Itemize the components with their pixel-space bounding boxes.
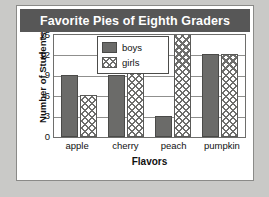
bar-pumpkin-girls bbox=[221, 54, 238, 137]
chart-title-banner: Favorite Pies of Eighth Graders bbox=[20, 9, 250, 32]
bar-group-apple bbox=[61, 35, 97, 137]
chart-legend: boys girls bbox=[97, 36, 169, 74]
legend-item-boys: boys bbox=[102, 40, 164, 55]
x-tick-label-pumpkin: pumpkin bbox=[199, 140, 245, 151]
bar-pumpkin-boys bbox=[202, 54, 219, 137]
y-axis-tick-labels: 0 3 6 9 12 15 bbox=[32, 34, 50, 138]
page-background: Favorite Pies of Eighth Graders Number o… bbox=[0, 0, 269, 197]
y-tick-label: 6 bbox=[45, 91, 50, 101]
page-title: Favorite Pies of Eighth Graders bbox=[40, 14, 230, 28]
bar-cherry-boys bbox=[108, 75, 125, 137]
bar-peach-girls bbox=[174, 34, 191, 137]
bar-peach-boys bbox=[155, 116, 172, 137]
y-tick-label: 15 bbox=[39, 30, 50, 40]
bar-group-pumpkin bbox=[202, 35, 238, 137]
y-tick-label: 9 bbox=[45, 70, 50, 80]
bar-apple-boys bbox=[61, 75, 78, 137]
plot-area: boys girls bbox=[53, 34, 246, 138]
chart-card: Favorite Pies of Eighth Graders Number o… bbox=[16, 5, 254, 181]
chart-region: Number of Students 0 3 6 9 12 15 bbox=[20, 34, 250, 178]
y-tick-label: 12 bbox=[39, 50, 50, 60]
solid-dark-gray-swatch-icon bbox=[102, 42, 117, 53]
x-axis-title: Flavors bbox=[53, 156, 246, 167]
x-tick-label-cherry: cherry bbox=[102, 140, 148, 151]
y-tick-label: 3 bbox=[45, 112, 50, 122]
legend-item-girls: girls bbox=[102, 55, 164, 70]
y-tick-label: 0 bbox=[45, 132, 50, 142]
x-tick-label-apple: apple bbox=[54, 140, 100, 151]
bar-apple-girls bbox=[80, 95, 97, 137]
x-axis-tick-labels: apple cherry peach pumpkin bbox=[53, 140, 246, 154]
legend-label-girls: girls bbox=[122, 57, 139, 68]
crosshatch-swatch-icon bbox=[102, 57, 117, 68]
legend-label-boys: boys bbox=[122, 42, 142, 53]
x-tick-label-peach: peach bbox=[151, 140, 197, 151]
